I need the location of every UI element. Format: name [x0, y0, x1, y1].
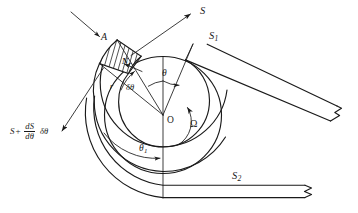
s1-strap-inner-line	[186, 60, 331, 121]
force-s-in-label: S	[200, 6, 205, 17]
diagram-canvas	[0, 0, 358, 213]
angle-delta-theta-text: δθ	[126, 82, 134, 92]
radius-text: r	[110, 82, 113, 91]
angle-theta1-subscript: 1	[144, 147, 148, 154]
normal-force-label: Nr	[122, 57, 131, 67]
element-a-leader-arrow	[71, 12, 100, 37]
tension-s1-subscript: 1	[214, 34, 218, 43]
centre-label: O	[167, 116, 174, 126]
tension-s1-label: S1	[209, 31, 218, 43]
force-s-out-expression: S + dS dθ δθ	[10, 122, 48, 141]
element-a-text: A	[101, 31, 107, 42]
force-s-out-label-wrap: S + dS dθ δθ	[10, 121, 48, 141]
force-s-out-denominator: dθ	[24, 131, 35, 141]
force-s-in-arrow	[131, 14, 191, 56]
radius-line-to-s1	[163, 44, 193, 115]
radius-label: r	[110, 83, 113, 91]
radius-line-element-edge	[117, 40, 163, 115]
angle-theta-arc-left	[148, 81, 163, 86]
force-s-out-fraction: dS dθ	[24, 122, 35, 141]
angular-velocity-text: Ω	[190, 118, 197, 129]
s2-strap-break-icon	[305, 185, 312, 197]
force-s-in-text: S	[200, 5, 205, 16]
force-s-out-numerator: dS	[24, 122, 35, 131]
element-a-label: A	[101, 32, 107, 42]
angle-theta-text: θ	[162, 68, 167, 78]
force-s-out-tail: δθ	[40, 127, 48, 136]
band-outer-to-s2-bottom	[85, 98, 305, 198]
angle-theta1-text: θ	[139, 143, 144, 153]
centre-text: O	[167, 115, 174, 125]
tension-s2-label: S2	[232, 171, 241, 183]
angle-delta-theta-label: δθ	[126, 83, 134, 92]
s1-strap-break-icon	[331, 106, 342, 121]
angle-theta1-label: θ1	[139, 144, 147, 155]
force-s-out-plus: +	[15, 127, 22, 136]
tension-s2-subscript: 2	[237, 174, 241, 183]
normal-force-subscript: r	[128, 61, 131, 67]
angle-theta-label: θ	[162, 69, 167, 79]
spiral-band-drum-diagram: S A Nr r δθ θ θ1 O Ω S1 S2 S +	[0, 0, 358, 213]
band-outer-to-s2-top	[94, 96, 305, 185]
angular-velocity-label: Ω	[190, 119, 197, 129]
